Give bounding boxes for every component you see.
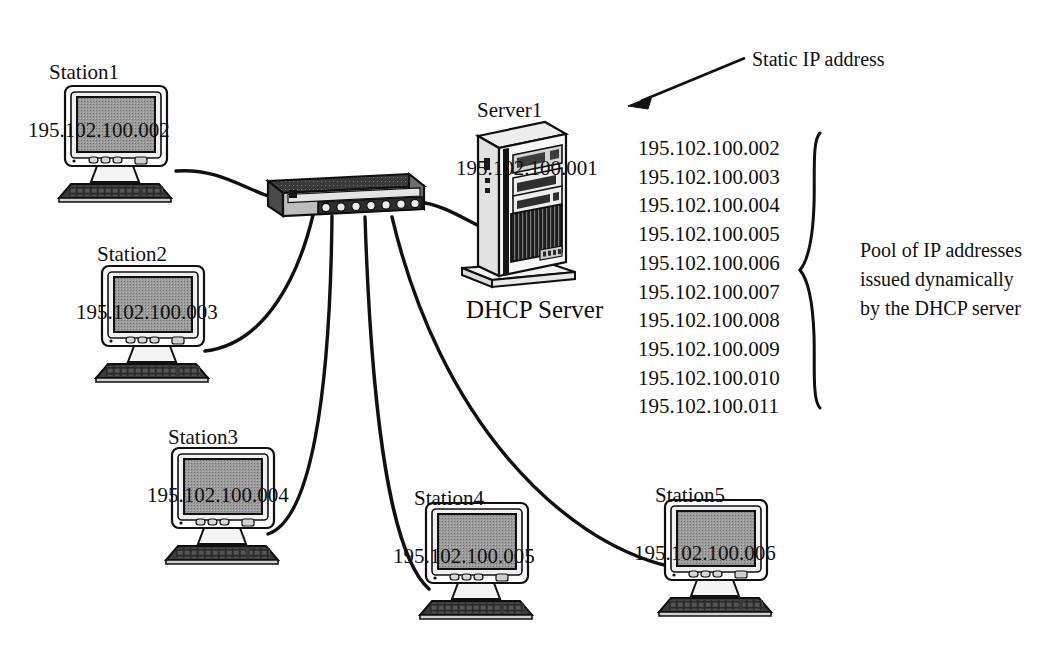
pool-address-5: 195.102.100.006: [638, 249, 780, 278]
server1-ip: 195.102.100.001: [456, 154, 598, 183]
pool-note-line3: by the DHCP server: [860, 294, 1022, 323]
station2-ip: 195.102.100.003: [76, 298, 218, 327]
station2-label: Station2 195.102.100.003: [76, 211, 218, 385]
pool-address-8: 195.102.100.009: [638, 335, 780, 364]
station3-name: Station3: [168, 425, 238, 449]
station4-label: Station4 195.102.100.005: [393, 455, 535, 629]
station1-ip: 195.102.100.002: [28, 116, 170, 145]
station5-name: Station5: [655, 483, 725, 507]
pool-address-7: 195.102.100.008: [638, 306, 780, 335]
station3-ip: 195.102.100.004: [147, 481, 289, 510]
pool-note-line1: Pool of IP addresses: [860, 236, 1022, 265]
pool-address-2: 195.102.100.003: [638, 163, 780, 192]
station5-ip: 195.102.100.006: [634, 539, 776, 568]
pool-address-1: 195.102.100.002: [638, 134, 780, 163]
station1-name: Station1: [49, 60, 119, 84]
pool-address-4: 195.102.100.005: [638, 220, 780, 249]
server1-label: Server1 195.102.100.001: [456, 67, 598, 241]
station1-label: Station1 195.102.100.002: [28, 29, 170, 203]
pool-address-9: 195.102.100.010: [638, 364, 780, 393]
network-diagram: Station1 195.102.100.002 Station2 195.10…: [0, 0, 1057, 649]
pool-address-3: 195.102.100.004: [638, 191, 780, 220]
station4-name: Station4: [414, 486, 484, 510]
station3-label: Station3 195.102.100.004: [147, 394, 289, 568]
pool-address-6: 195.102.100.007: [638, 278, 780, 307]
pool-address-10: 195.102.100.011: [638, 392, 780, 421]
server1-name: Server1: [477, 98, 542, 122]
station5-label: Station5 195.102.100.006: [634, 452, 776, 626]
static-ip-annotation: Static IP address: [752, 48, 885, 71]
pool-note-line2: issued dynamically: [860, 265, 1022, 294]
network-hub: [268, 174, 424, 216]
station4-ip: 195.102.100.005: [393, 542, 535, 571]
address-pool-annotation: Pool of IP addresses issued dynamically …: [860, 236, 1022, 323]
dhcp-server-caption: DHCP Server: [466, 296, 603, 324]
station2-name: Station2: [97, 242, 167, 266]
address-pool-list: 195.102.100.002195.102.100.003195.102.10…: [638, 134, 780, 421]
